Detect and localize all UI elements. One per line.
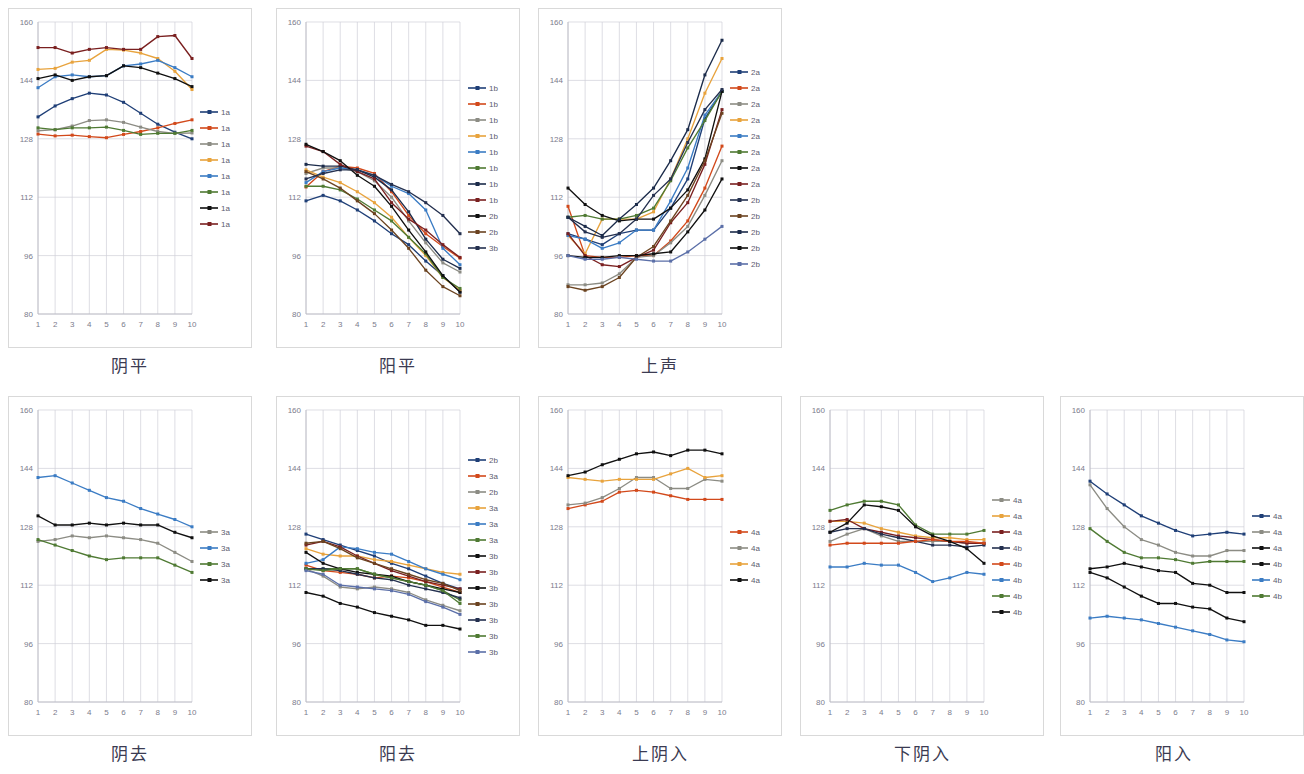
x-axis-tick-label: 8 — [424, 320, 429, 329]
series-marker — [373, 208, 376, 211]
series-marker — [1225, 617, 1228, 620]
y-axis-tick-label: 112 — [550, 581, 563, 590]
x-axis-tick-label: 2 — [845, 708, 850, 717]
series-marker — [635, 478, 638, 481]
series-marker — [191, 75, 194, 78]
series-marker — [983, 529, 986, 532]
y-axis-tick-label: 80 — [24, 698, 33, 707]
series-marker — [1191, 534, 1194, 537]
x-axis-tick-label: 3 — [70, 708, 75, 717]
legend-swatch-marker — [476, 634, 480, 638]
series-marker — [601, 263, 604, 266]
series-marker — [686, 250, 689, 253]
series-marker — [88, 48, 91, 51]
y-axis-tick-label: 128 — [550, 135, 564, 144]
x-axis-tick-label: 10 — [718, 320, 727, 329]
series-marker — [965, 547, 968, 550]
series-marker — [1208, 607, 1211, 610]
series-marker — [686, 188, 689, 191]
series-marker — [54, 46, 57, 49]
series-marker — [390, 553, 393, 556]
series-marker — [54, 104, 57, 107]
series-marker — [669, 241, 672, 244]
legend-label: 2a — [751, 164, 760, 173]
series-marker — [669, 199, 672, 202]
legend-swatch-marker — [1260, 530, 1264, 534]
x-axis-tick-label: 9 — [703, 708, 708, 717]
line-chart-xiayinru: 8096112128144160123456789104a4a4a4b4b4b4… — [800, 396, 1044, 736]
series-marker — [105, 136, 108, 139]
series-marker — [1089, 480, 1092, 483]
legend-swatch-marker — [476, 458, 480, 462]
series-marker — [652, 218, 655, 221]
x-axis-tick-label: 5 — [372, 708, 377, 717]
series-marker — [618, 265, 621, 268]
series-marker — [459, 602, 462, 605]
series-marker — [105, 126, 108, 129]
series-marker — [356, 586, 359, 589]
legend-swatch-marker — [208, 546, 212, 550]
series-marker — [459, 596, 462, 599]
x-axis-tick-label: 9 — [703, 320, 708, 329]
y-axis-tick-label: 160 — [20, 18, 34, 27]
series-marker — [424, 578, 427, 581]
series-marker — [322, 177, 325, 180]
series-marker — [584, 478, 587, 481]
series-marker — [373, 555, 376, 558]
y-axis-tick-label: 112 — [288, 193, 301, 202]
series-marker — [983, 562, 986, 565]
plot-area — [568, 410, 722, 702]
series-marker — [686, 219, 689, 222]
legend-swatch-marker — [738, 134, 742, 138]
series-marker — [983, 542, 986, 545]
series-marker — [37, 86, 40, 89]
series-marker — [1174, 571, 1177, 574]
series-marker — [88, 135, 91, 138]
legend-swatch-marker — [476, 650, 480, 654]
series-marker — [1191, 582, 1194, 585]
y-axis-tick-label: 160 — [550, 18, 564, 27]
legend-label: 1a — [221, 220, 230, 229]
y-axis-tick-label: 96 — [816, 640, 825, 649]
x-axis-tick-label: 9 — [441, 708, 446, 717]
legend-label: 4b — [1273, 592, 1282, 601]
legend-swatch-marker — [476, 618, 480, 622]
series-marker — [1208, 584, 1211, 587]
legend-label: 2a — [751, 180, 760, 189]
legend-label: 1a — [221, 188, 230, 197]
series-marker — [1208, 533, 1211, 536]
series-marker — [1157, 556, 1160, 559]
series-marker — [846, 522, 849, 525]
legend-label: 3a — [221, 560, 230, 569]
series-marker — [173, 77, 176, 80]
series-marker — [390, 183, 393, 186]
series-marker — [305, 199, 308, 202]
series-marker — [1157, 602, 1160, 605]
x-axis-tick-label: 2 — [321, 708, 326, 717]
x-axis-tick-label: 7 — [406, 708, 411, 717]
legend-swatch-marker — [476, 214, 480, 218]
y-axis-tick-label: 160 — [550, 406, 564, 415]
series-marker — [1140, 514, 1143, 517]
legend-swatch-marker — [476, 586, 480, 590]
series-marker — [390, 232, 393, 235]
series-marker — [721, 498, 724, 501]
series-marker — [407, 593, 410, 596]
legend-label: 4a — [1013, 496, 1022, 505]
x-axis-tick-label: 6 — [121, 708, 126, 717]
series-marker — [191, 536, 194, 539]
series-marker — [584, 502, 587, 505]
legend-label: 1a — [221, 204, 230, 213]
x-axis-tick-label: 1 — [1088, 708, 1093, 717]
x-axis-tick-label: 1 — [566, 320, 571, 329]
series-marker — [584, 225, 587, 228]
legend-label: 1b — [489, 100, 498, 109]
series-marker — [122, 522, 125, 525]
series-marker — [1243, 620, 1246, 623]
series-marker — [652, 491, 655, 494]
x-axis-tick-label: 7 — [138, 320, 143, 329]
series-marker — [424, 269, 427, 272]
legend-label: 1a — [221, 124, 230, 133]
series-marker — [54, 474, 57, 477]
